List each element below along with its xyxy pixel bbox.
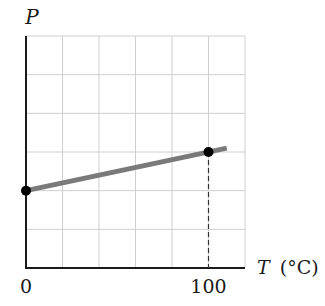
x-axis-unit: (°C)	[280, 256, 319, 278]
y-axis-label: P	[24, 5, 39, 29]
x-tick-labels: 0100	[20, 275, 227, 297]
data-point	[204, 147, 214, 157]
x-tick-label: 0	[20, 275, 32, 297]
x-tick-label: 100	[190, 275, 226, 297]
x-axis-label: T (°C)	[257, 256, 319, 278]
x-axis-variable: T	[257, 256, 271, 278]
pressure-temperature-chart: P T (°C) 0100	[0, 0, 325, 306]
data-point	[21, 186, 31, 196]
series-line	[26, 148, 227, 191]
